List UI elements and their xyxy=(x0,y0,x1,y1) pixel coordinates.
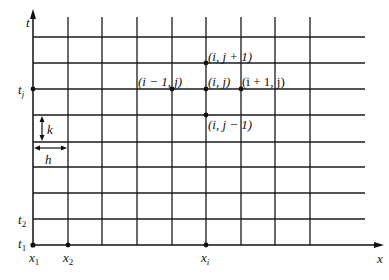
h-arrow-left-icon xyxy=(34,146,40,151)
k-label: k xyxy=(47,123,53,136)
x1-label: x1 xyxy=(29,251,39,267)
k-arrow-up-icon xyxy=(40,116,45,122)
xi-label: xi xyxy=(201,251,209,267)
x2-label: x2 xyxy=(63,251,73,267)
tj-label: tj xyxy=(18,83,24,99)
node-bottom-label: (i, j − 1) xyxy=(208,118,252,131)
grid-diagram xyxy=(0,0,389,280)
h-label: h xyxy=(45,153,52,166)
x2-node xyxy=(66,243,71,248)
k-arrow-down-icon xyxy=(40,135,45,141)
node-left-label: (i − 1, j) xyxy=(138,75,182,88)
xi-node xyxy=(204,243,209,248)
origin-node xyxy=(30,242,35,247)
t-axis-label: t xyxy=(26,16,30,29)
h-arrow-right-icon xyxy=(61,146,67,151)
t-axis-arrow-icon xyxy=(30,9,36,19)
node-top-label: (i, j + 1) xyxy=(208,50,252,63)
x-axis-label: x xyxy=(377,252,383,265)
tj-node xyxy=(31,87,36,92)
t1-label: t1 xyxy=(18,237,26,253)
node-center-label: (i, j) xyxy=(208,75,230,88)
grid-lines xyxy=(33,17,365,245)
node-right-label: (i + 1, j) xyxy=(242,75,285,88)
x-axis-arrow-icon xyxy=(374,242,384,248)
t2-label: t2 xyxy=(18,213,26,229)
